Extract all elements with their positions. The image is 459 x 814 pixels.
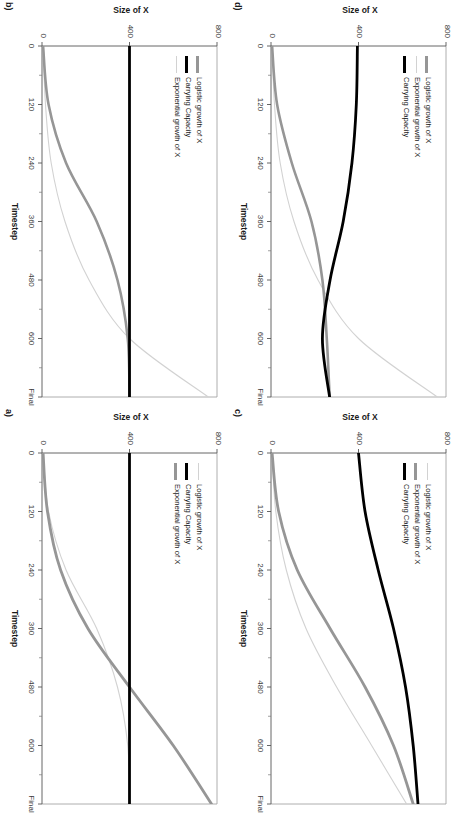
x-tick-label: 600 bbox=[256, 323, 265, 355]
x-tick-label: 480 bbox=[27, 264, 36, 296]
series-line bbox=[272, 46, 330, 397]
chart-panel-c: 0120240360480600Final0400800TimestepSize… bbox=[229, 407, 458, 814]
y-tick-label: 0 bbox=[268, 407, 277, 445]
x-tick-label: 240 bbox=[27, 147, 36, 179]
legend-swatch bbox=[198, 463, 199, 480]
panel-letter-c: c) bbox=[233, 409, 243, 417]
legend-label: Exponential growth of X bbox=[413, 484, 422, 564]
series-line bbox=[272, 453, 413, 804]
y-axis-title: Size of X bbox=[92, 412, 172, 422]
legend-swatch bbox=[196, 56, 199, 73]
x-tick-label: 0 bbox=[27, 437, 36, 469]
x-tick-label: Final bbox=[27, 788, 36, 814]
chart-panel-b: 0120240360480600Final0400800TimestepSize… bbox=[0, 0, 229, 407]
x-axis-title: Timestep bbox=[239, 46, 249, 397]
x-tick-label: 600 bbox=[27, 730, 36, 762]
legend-swatch bbox=[403, 56, 406, 73]
legend-swatch bbox=[185, 463, 188, 480]
legend-label: Logistic growth of X bbox=[195, 484, 204, 550]
legend-label: Logistic growth of X bbox=[424, 484, 433, 550]
y-tick-label: 0 bbox=[39, 407, 48, 445]
legend-swatch bbox=[416, 56, 417, 73]
legend-label: Logistic growth of X bbox=[424, 77, 433, 143]
legend-swatch bbox=[414, 463, 417, 480]
x-tick-label: 0 bbox=[256, 437, 265, 469]
series-line bbox=[43, 453, 129, 804]
x-tick-label: 600 bbox=[256, 730, 265, 762]
x-tick-label: 360 bbox=[27, 613, 36, 645]
x-axis-title: Timestep bbox=[10, 453, 20, 804]
x-tick-label: 120 bbox=[256, 496, 265, 528]
x-tick-label: 480 bbox=[256, 264, 265, 296]
legend-label: Logistic growth of X bbox=[195, 77, 204, 143]
legend-swatch bbox=[185, 56, 188, 73]
legend-swatch bbox=[176, 56, 177, 73]
legend-label: Carrying Capacity bbox=[402, 484, 411, 544]
x-tick-label: 120 bbox=[27, 496, 36, 528]
x-tick-label: 360 bbox=[256, 206, 265, 238]
figure-canvas: 0120240360480600Final0400800TimestepSize… bbox=[0, 0, 459, 814]
panel-rotation-wrapper: 0120240360480600Final0400800TimestepSize… bbox=[0, 0, 229, 407]
x-tick-label: 360 bbox=[27, 206, 36, 238]
y-tick-label: 0 bbox=[268, 0, 277, 38]
panel-letter-b: b) bbox=[4, 2, 14, 11]
x-axis-title: Timestep bbox=[10, 46, 20, 397]
y-tick-label: 800 bbox=[443, 0, 452, 38]
y-tick-label: 0 bbox=[39, 0, 48, 38]
panel-rotation-wrapper: 0120240360480600Final0400800TimestepSize… bbox=[0, 407, 229, 814]
legend-label: Carrying Capacity bbox=[184, 484, 193, 544]
chart-panel-a: 0120240360480600Final0400800TimestepSize… bbox=[0, 407, 229, 814]
panel-rotation-wrapper: 0120240360480600Final0400800TimestepSize… bbox=[229, 0, 458, 407]
x-tick-label: 480 bbox=[256, 671, 265, 703]
legend-swatch bbox=[427, 463, 428, 480]
series-line bbox=[43, 46, 129, 397]
panel-rotation-wrapper: 0120240360480600Final0400800TimestepSize… bbox=[229, 407, 458, 814]
x-tick-label: 480 bbox=[27, 671, 36, 703]
legend-swatch bbox=[425, 56, 428, 73]
x-tick-label: 240 bbox=[27, 554, 36, 586]
y-tick-label: 800 bbox=[443, 407, 452, 445]
x-tick-label: 0 bbox=[256, 30, 265, 62]
x-tick-label: 120 bbox=[256, 89, 265, 121]
chart-panel-d: 0120240360480600Final0400800TimestepSize… bbox=[229, 0, 458, 407]
series-group bbox=[272, 453, 418, 804]
legend-label: Carrying Capacity bbox=[184, 77, 193, 137]
legend-swatch bbox=[403, 463, 406, 480]
legend-label: Carrying Capacity bbox=[402, 77, 411, 137]
legend-swatch bbox=[174, 463, 177, 480]
legend-label: Exponential growth of X bbox=[173, 77, 182, 157]
x-tick-label: 600 bbox=[27, 323, 36, 355]
x-tick-label: 0 bbox=[27, 30, 36, 62]
panel-letter-d: d) bbox=[233, 2, 243, 11]
x-tick-label: 120 bbox=[27, 89, 36, 121]
y-tick-label: 800 bbox=[214, 0, 223, 38]
legend-label: Exponential growth of X bbox=[413, 77, 422, 157]
legend-label: Exponential growth of X bbox=[173, 484, 182, 564]
x-axis-title: Timestep bbox=[239, 453, 249, 804]
y-axis-title: Size of X bbox=[321, 412, 401, 422]
y-axis-title: Size of X bbox=[321, 5, 401, 15]
y-tick-label: 800 bbox=[214, 407, 223, 445]
panel-letter-a: a) bbox=[4, 409, 14, 417]
y-axis-title: Size of X bbox=[92, 5, 172, 15]
x-tick-label: 240 bbox=[256, 554, 265, 586]
series-line bbox=[272, 453, 407, 804]
x-tick-label: 360 bbox=[256, 613, 265, 645]
x-tick-label: Final bbox=[256, 788, 265, 814]
x-tick-label: 240 bbox=[256, 147, 265, 179]
